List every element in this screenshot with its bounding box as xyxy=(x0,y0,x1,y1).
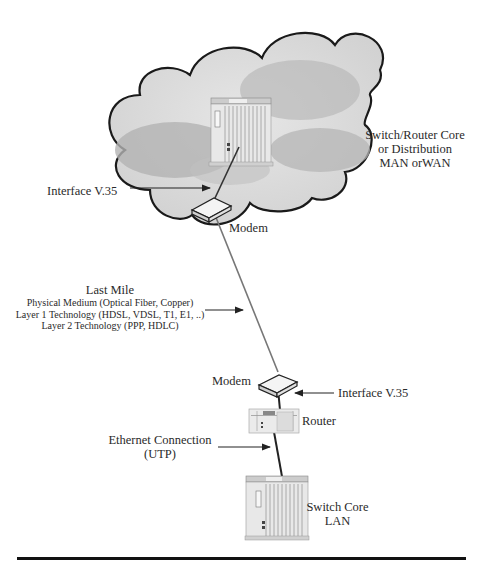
last-mile-line: Layer 1 Technology (HDSL, VDSL, T1, E1, … xyxy=(10,309,210,321)
ethernet-label-line: (UTP) xyxy=(105,447,215,461)
cloud-label-line: MAN orWAN xyxy=(360,156,470,170)
last-mile-line: Layer 2 Technology (PPP, HDLC) xyxy=(10,320,210,332)
core-switch-icon xyxy=(209,98,273,166)
switch-lan-label: Switch Core LAN xyxy=(305,500,370,528)
link-router-switch xyxy=(274,432,283,482)
modem-bottom-icon xyxy=(259,375,297,397)
router-icon xyxy=(249,409,299,433)
modem-top-label: Modem xyxy=(229,221,268,235)
switch-lan-label-line: LAN xyxy=(305,514,370,528)
ethernet-label: Ethernet Connection (UTP) xyxy=(105,433,215,461)
cloud-label-line: Switch/Router Core xyxy=(360,128,470,142)
switch-lan-label-line: Switch Core xyxy=(305,500,370,514)
interface-bottom-label: Interface V.35 xyxy=(338,386,408,400)
last-mile-title: Last Mile xyxy=(10,283,210,297)
router-label: Router xyxy=(302,414,336,428)
lan-switch-icon xyxy=(245,476,309,540)
bottom-rule xyxy=(17,557,466,560)
interface-top-label: Interface V.35 xyxy=(47,184,117,198)
ethernet-label-line: Ethernet Connection xyxy=(105,433,215,447)
last-mile-line: Physical Medium (Optical Fiber, Copper) xyxy=(10,297,210,309)
cloud-label: Switch/Router Core or Distribution MAN o… xyxy=(360,128,470,170)
cloud-label-line: or Distribution xyxy=(360,142,470,156)
modem-bottom-label: Modem xyxy=(212,374,251,388)
last-mile-label: Last Mile Physical Medium (Optical Fiber… xyxy=(10,283,210,332)
